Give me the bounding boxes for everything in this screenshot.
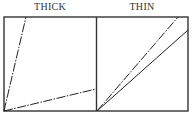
thin-dashed-line: [97, 17, 178, 111]
diagram: [0, 0, 192, 117]
thick-steep-line: [4, 17, 26, 111]
thin-panel-lines: [97, 17, 188, 111]
frame: [4, 17, 188, 111]
thin-solid-line: [97, 30, 188, 111]
thick-shallow-line: [4, 89, 96, 111]
thick-panel-lines: [4, 17, 96, 111]
